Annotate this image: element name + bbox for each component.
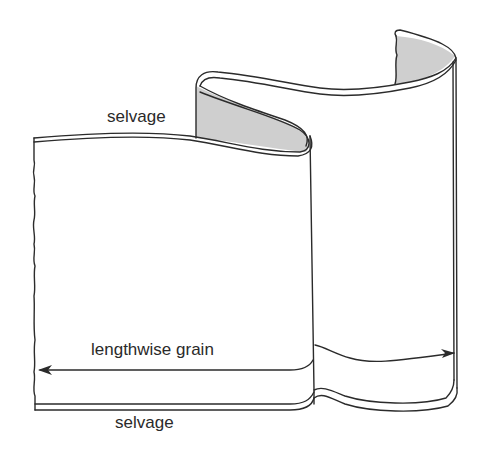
left-cut-edge xyxy=(33,138,35,410)
curl-inner-shading xyxy=(395,36,455,84)
grain-arrow-right xyxy=(315,345,454,361)
grain-arrow-left xyxy=(40,360,313,370)
fold-inner-shading xyxy=(196,86,308,152)
right-edge-outer xyxy=(456,58,457,388)
selvage-top-label: selvage xyxy=(107,108,166,125)
fabric-diagram xyxy=(0,0,489,467)
lengthwise-grain-label: lengthwise grain xyxy=(91,341,214,358)
selvage-bottom-label: selvage xyxy=(115,414,174,431)
bottom-selvage-inner-left xyxy=(35,392,314,404)
right-edge-inner xyxy=(453,62,454,380)
right-cut-edge xyxy=(395,36,397,84)
arrowhead-right-icon xyxy=(441,349,455,358)
